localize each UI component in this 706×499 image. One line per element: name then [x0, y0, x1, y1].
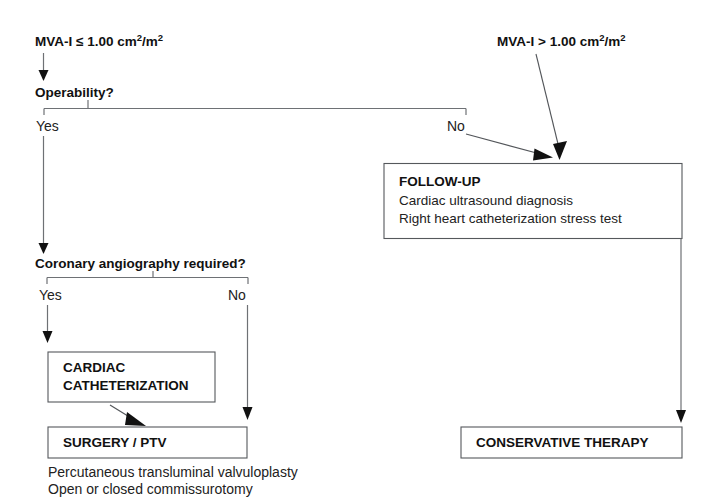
box-follow-up-title: FOLLOW-UP — [399, 174, 480, 189]
box-cardiac-catheterization-title-line2: CATHETERIZATION — [63, 378, 189, 393]
flowchart-canvas: MVA-I ≤ 1.00 cm2/m2 Operability? Yes No — [0, 0, 706, 499]
entry-label-right: MVA-I > 1.00 cm2/m2 — [497, 32, 626, 49]
flowchart-svg: MVA-I ≤ 1.00 cm2/m2 Operability? Yes No — [0, 0, 706, 499]
arrow-entry-right-to-followup — [536, 54, 567, 160]
footnote-line-1: Percutaneous transluminal valvuloplasty — [48, 464, 298, 480]
branch-coronary-split — [47, 271, 248, 284]
arrow-followup-to-conservative — [676, 239, 686, 424]
entry-label-left: MVA-I ≤ 1.00 cm2/m2 — [35, 32, 163, 49]
box-conservative-therapy-title: CONSERVATIVE THERAPY — [476, 435, 649, 450]
box-conservative-therapy: CONSERVATIVE THERAPY — [461, 427, 682, 458]
branch-coronary-no-label: No — [228, 287, 246, 303]
arrow-catheterization-to-surgery — [110, 405, 146, 426]
box-surgery-ptv-title: SURGERY / PTV — [63, 435, 167, 450]
box-cardiac-catheterization-title-line1: CARDIAC — [63, 360, 125, 375]
branch-operability-split — [44, 100, 466, 115]
footnote-line-2: Open or closed commissurotomy — [48, 481, 253, 497]
branch-coronary-yes-label: Yes — [39, 287, 62, 303]
box-cardiac-catheterization: CARDIAC CATHETERIZATION — [48, 352, 215, 402]
box-follow-up: FOLLOW-UP Cardiac ultrasound diagnosis R… — [384, 164, 682, 239]
branch-operability-yes-label: Yes — [36, 118, 59, 134]
decision-operability-question: Operability? — [35, 85, 114, 100]
box-follow-up-line-1: Cardiac ultrasound diagnosis — [399, 193, 573, 208]
decision-coronary-question: Coronary angiography required? — [35, 256, 246, 271]
branch-operability-no-label: No — [447, 118, 465, 134]
arrow-entry-to-operability — [39, 53, 49, 81]
arrow-coronary-no-to-surgery — [243, 305, 253, 420]
arrow-coronary-yes-to-catheterization — [43, 305, 53, 343]
box-surgery-ptv: SURGERY / PTV — [48, 427, 247, 458]
box-follow-up-line-2: Right heart catheterization stress test — [399, 211, 622, 226]
arrow-operability-yes-to-coronary — [39, 136, 49, 254]
arrow-operability-no-to-followup — [466, 134, 553, 161]
